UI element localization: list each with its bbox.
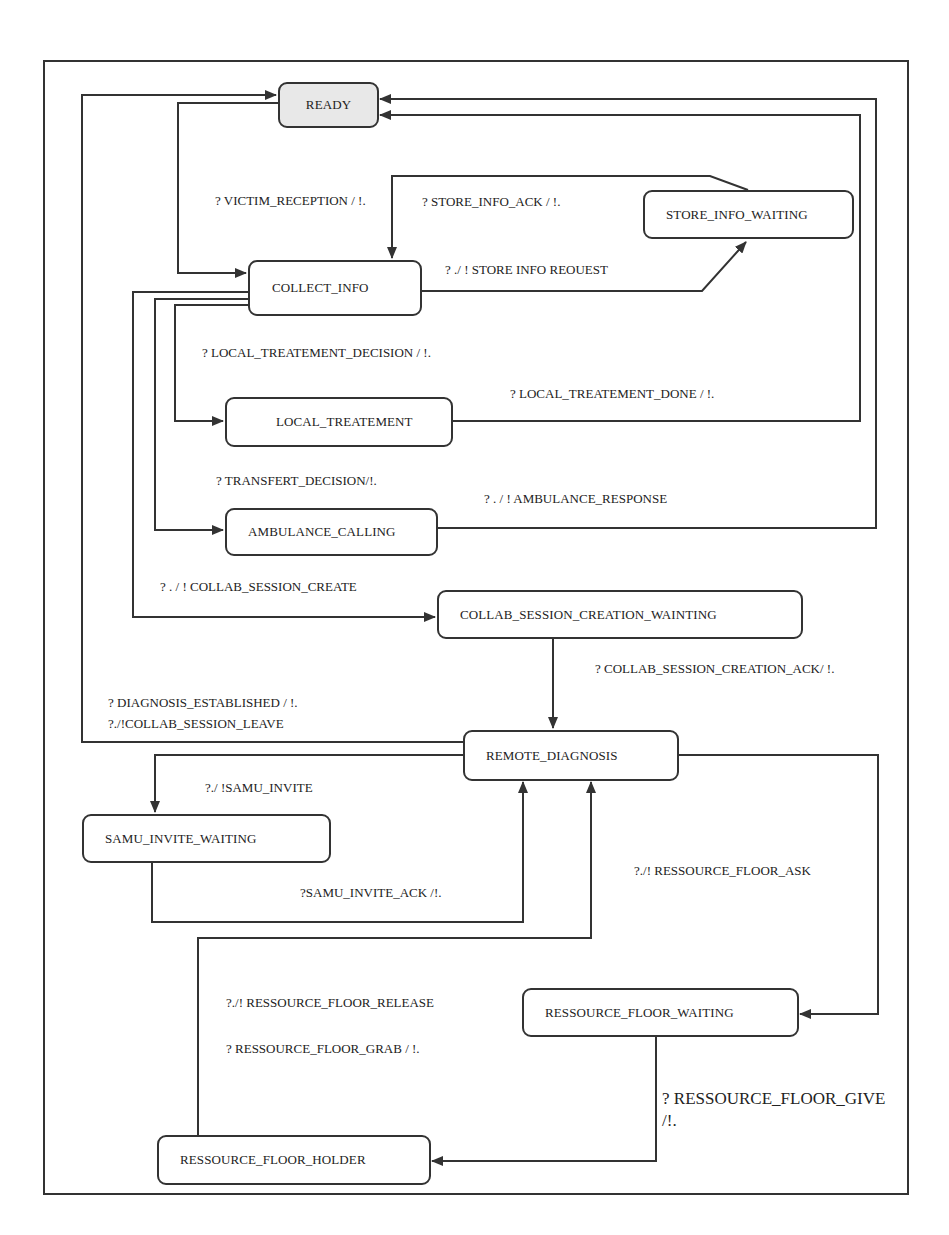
state-remote-diagnosis[interactable]: REMOTE_DIAGNOSIS <box>463 730 679 781</box>
transition-label-collab-session-leave: ?./!COLLAB_SESSION_LEAVE <box>108 716 284 732</box>
transition-label-samu-invite: ?./ !SAMU_INVITE <box>205 780 313 796</box>
edge-ambulance-calling-to-ready <box>380 99 876 528</box>
state-label: SAMU_INVITE_WAITING <box>105 831 256 847</box>
state-label: REMOTE_DIAGNOSIS <box>486 748 618 764</box>
state-ressource-floor-waiting[interactable]: RESSOURCE_FLOOR_WAITING <box>522 988 799 1037</box>
transition-label-ambulance-response: ? . / ! AMBULANCE_RESPONSE <box>484 491 667 507</box>
transition-label-ressource-floor-ask: ?./! RESSOURCE_FLOOR_ASK <box>634 863 811 879</box>
state-local-treatement[interactable]: LOCAL_TREATEMENT <box>225 397 453 447</box>
transition-label-victim-reception: ? VICTIM_RECEPTION / !. <box>215 193 366 209</box>
transition-label-local-treatement-done: ? LOCAL_TREATEMENT_DONE / !. <box>510 386 714 402</box>
edge-ready-to-collect-info <box>178 103 278 273</box>
state-label: READY <box>306 97 351 113</box>
state-collect-info[interactable]: COLLECT_INFO <box>248 260 422 316</box>
state-ambulance-calling[interactable]: AMBULANCE_CALLING <box>225 508 438 556</box>
transition-label-samu-invite-ack: ?SAMU_INVITE_ACK /!. <box>300 885 442 901</box>
transition-label-local-treatement-decision: ? LOCAL_TREATEMENT_DECISION / !. <box>202 345 431 361</box>
state-label: LOCAL_TREATEMENT <box>276 414 413 430</box>
transition-label-ressource-floor-release: ?./! RESSOURCE_FLOOR_RELEASE <box>226 995 434 1011</box>
transition-label-store-info-ack: ? STORE_INFO_ACK / !. <box>422 194 560 210</box>
edge-floor-waiting-to-floor-holder <box>432 1036 656 1161</box>
state-label: RESSOURCE_FLOOR_WAITING <box>545 1005 734 1021</box>
transition-label-store-info-request: ? ./ ! STORE INFO REOUEST <box>445 262 608 278</box>
state-samu-invite-waiting[interactable]: SAMU_INVITE_WAITING <box>82 814 331 863</box>
transition-label-ressource-floor-grab: ? RESSOURCE_FLOOR_GRAB / !. <box>226 1041 420 1057</box>
edge-remote-diagnosis-to-floor-waiting <box>678 755 878 1014</box>
state-store-info-waiting[interactable]: STORE_INFO_WAITING <box>643 190 854 239</box>
state-ressource-floor-holder[interactable]: RESSOURCE_FLOOR_HOLDER <box>157 1135 431 1185</box>
state-label: AMBULANCE_CALLING <box>248 524 396 540</box>
transition-label-ressource-floor-give: ? RESSOURCE_FLOOR_GIVE /!. <box>662 1088 902 1132</box>
transition-label-transfert-decision: ? TRANSFERT_DECISION/!. <box>216 473 377 489</box>
transition-label-diagnosis-established: ? DIAGNOSIS_ESTABLISHED / !. <box>108 695 298 711</box>
state-label: STORE_INFO_WAITING <box>666 207 808 223</box>
state-label: COLLAB_SESSION_CREATION_WAINTING <box>460 607 717 623</box>
state-collab-session-creation-wainting[interactable]: COLLAB_SESSION_CREATION_WAINTING <box>437 590 803 639</box>
state-ready[interactable]: READY <box>278 82 379 128</box>
edge-collect-info-to-collab-session <box>133 292 435 617</box>
transition-label-collab-session-creation-ack: ? COLLAB_SESSION_CREATION_ACK/ !. <box>595 661 834 677</box>
state-label: RESSOURCE_FLOOR_HOLDER <box>180 1152 366 1168</box>
transition-label-collab-session-create: ? . / ! COLLAB_SESSION_CREATE <box>160 579 357 595</box>
state-label: COLLECT_INFO <box>272 280 369 296</box>
